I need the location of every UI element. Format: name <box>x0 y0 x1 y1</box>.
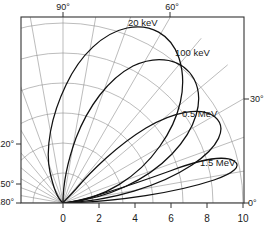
polar-scattering-figure: 0 2 4 6 8 10 90° 60° 120° 150° 180° 30° … <box>0 0 269 229</box>
x-tick-label-8: 8 <box>204 213 210 224</box>
x-tick-label-6: 6 <box>168 213 174 224</box>
curve-label-05mev: 0.5 MeV <box>182 108 218 119</box>
curve-label-100kev: 100 keV <box>175 47 211 58</box>
angle-label-0: 0° <box>248 198 257 208</box>
curve-label-20kev: 20 keV <box>128 17 158 28</box>
polar-plot-svg: 0 2 4 6 8 10 90° 60° 120° 150° 180° 30° … <box>0 0 269 229</box>
x-tick-label-10: 10 <box>237 213 249 224</box>
angle-label-150: 150° <box>0 179 14 189</box>
angle-label-120: 120° <box>0 139 14 149</box>
x-tick-label-2: 2 <box>96 213 102 224</box>
angle-label-90: 90° <box>56 2 70 12</box>
angle-label-60: 60° <box>165 2 179 12</box>
x-tick-label-0: 0 <box>60 213 66 224</box>
angle-label-30: 30° <box>250 94 264 104</box>
curve-label-15mev: 1.5 MeV <box>200 157 236 168</box>
x-tick-label-4: 4 <box>132 213 138 224</box>
angle-label-180: 180° <box>0 197 14 207</box>
